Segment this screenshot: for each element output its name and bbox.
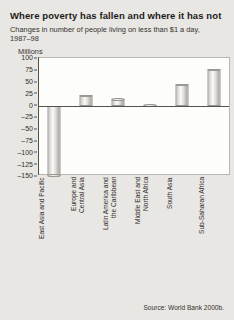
x-axis-label: East Asia and Pacific (38, 177, 70, 253)
y-axis-tickmark (34, 69, 37, 70)
bar-slot (102, 58, 134, 174)
y-axis-tick-labels: 1007550250–25–50–75–100–125–150 (10, 57, 36, 175)
bar-slot (38, 58, 70, 174)
bar-cap (208, 69, 221, 72)
bar-cap (80, 95, 93, 98)
y-axis-tick: –100 (17, 148, 33, 155)
y-axis-tick: –150 (17, 172, 33, 179)
x-axis-label: Latin America and the Caribbean (102, 177, 134, 253)
bar-slot (134, 58, 166, 174)
bar-series (38, 58, 229, 174)
zero-baseline (38, 106, 229, 107)
y-axis-tick: –125 (17, 160, 33, 167)
x-axis-label: Middle East and North Africa (134, 177, 166, 253)
y-axis-tickmark (34, 105, 37, 106)
x-axis-label: Europe and Central Asia (70, 177, 102, 253)
y-axis-tick: 50 (25, 78, 33, 85)
bar-slot (166, 58, 198, 174)
y-axis-tick: 25 (25, 89, 33, 96)
y-axis-tick: 0 (29, 101, 33, 108)
page-title: Where poverty has fallen and where it ha… (10, 10, 226, 22)
bar[interactable] (112, 99, 125, 106)
y-axis-tickmark (34, 93, 37, 94)
y-axis-tickmark (34, 116, 37, 117)
chart-container: 1007550250–25–50–75–100–125–150 East Asi… (10, 57, 226, 255)
y-axis-line (38, 57, 39, 175)
bar[interactable] (48, 106, 61, 177)
y-axis-tick: –50 (21, 125, 33, 132)
bar-slot (70, 58, 102, 174)
x-axis-label: Sub-Saharan Africa (198, 177, 230, 253)
y-axis-tickmark (34, 81, 37, 82)
bar-cap (112, 98, 125, 101)
y-axis-tickmark (34, 152, 37, 153)
y-axis-tick: 75 (25, 66, 33, 73)
plot-area (38, 57, 230, 175)
y-axis-tick: –25 (21, 113, 33, 120)
bar-slot (198, 58, 230, 174)
bar[interactable] (176, 84, 189, 105)
bar[interactable] (80, 95, 93, 105)
y-axis-tick: –75 (21, 137, 33, 144)
y-axis-tickmark (34, 57, 37, 58)
source-note: Source: World Bank 2000b. (143, 304, 224, 311)
bar-cap (176, 84, 189, 87)
chart-subtitle: Changes in number of people living on le… (10, 25, 216, 43)
y-axis-tickmark (34, 164, 37, 165)
y-axis-tickmark (34, 140, 37, 141)
y-axis-unit-label: Millions (18, 47, 226, 56)
y-axis-tickmark (34, 128, 37, 129)
x-axis-label: South Asia (166, 177, 198, 253)
chart-page: Where poverty has fallen and where it ha… (0, 0, 234, 320)
bar[interactable] (208, 69, 221, 105)
y-axis-tickmark (34, 175, 37, 176)
x-axis-category-labels: East Asia and PacificEurope and Central … (38, 175, 230, 255)
bar-cap (48, 174, 61, 177)
y-axis-tick: 100 (21, 54, 33, 61)
